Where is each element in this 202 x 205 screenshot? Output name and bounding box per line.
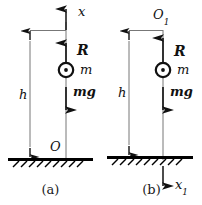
height-label-h-a: h [19,88,27,101]
diagram-panel-b: O1 R m mg h x1 (b) [101,0,202,205]
ground-hatching-a [13,161,83,167]
physics-figure: x R m mg h O (a) [0,0,202,205]
mass-label-m-a: m [80,63,92,76]
diagram-panel-a: x R m mg h O (a) [0,0,101,205]
force-label-mg-a: mg [73,85,96,98]
force-label-mg-b: mg [170,85,193,98]
force-label-R-a: R [77,43,89,57]
mass-label-m-b: m [177,63,189,76]
force-label-R-b: R [174,44,186,58]
origin-label-O-a: O [50,140,61,153]
axis-label-x-a: x [78,5,85,18]
diagram-b-graphics [101,0,202,205]
particle-symbol-a [59,63,73,77]
origin-label-O1-base: O [153,7,164,22]
particle-symbol-b [156,63,170,77]
ground-hatching-b [112,159,182,165]
panel-caption-a: (a) [0,182,101,197]
diagram-a-graphics [0,0,101,205]
panel-caption-b: (b) [101,182,202,197]
height-label-h-b: h [118,86,126,99]
origin-label-O1-b: O1 [153,8,169,24]
origin-label-O1-subscript: 1 [164,17,170,27]
